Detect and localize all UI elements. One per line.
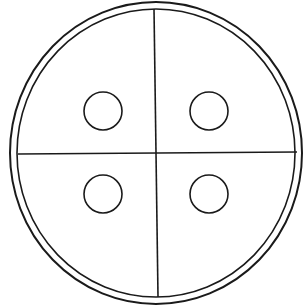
quadrant-circle-bottom-left: [84, 175, 122, 213]
quadrant-circle-top-left: [84, 92, 122, 130]
quadrant-circle-diagram: [0, 0, 304, 306]
horizontal-divider: [18, 152, 297, 154]
quadrant-circle-top-right: [190, 92, 228, 130]
quadrant-circle-bottom-right: [190, 175, 228, 213]
